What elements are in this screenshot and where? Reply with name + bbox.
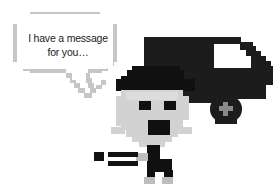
motion-dot [94, 152, 104, 161]
motion-line-upper [108, 152, 138, 157]
motion-line-lower [108, 161, 138, 166]
pixel-art-scene: I have a message for you… [0, 0, 275, 195]
motion-lines [0, 0, 275, 195]
